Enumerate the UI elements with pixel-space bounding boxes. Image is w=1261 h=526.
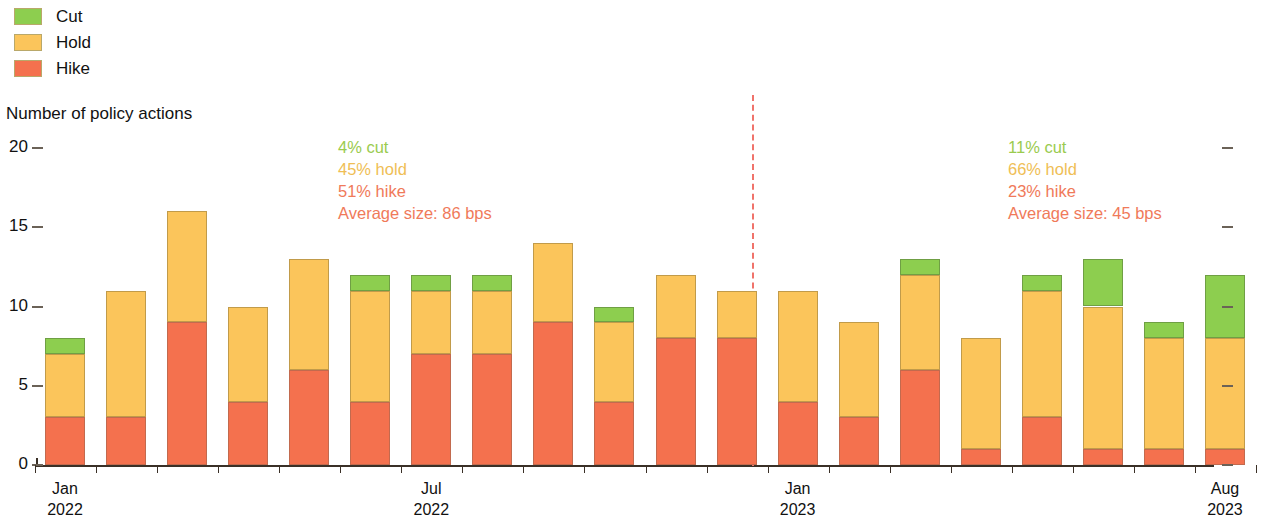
y-tick-dash-left-5 bbox=[32, 385, 43, 387]
x-axis-label-year: 2023 bbox=[1185, 499, 1261, 520]
bar-segment-cut[interactable] bbox=[411, 275, 451, 291]
x-axis-label-month: Aug bbox=[1185, 478, 1261, 499]
y-tick-dash-right-5 bbox=[1222, 385, 1233, 387]
bar-feb-2023[interactable] bbox=[839, 0, 879, 526]
bar-segment-hike[interactable] bbox=[656, 338, 696, 465]
bar-segment-cut[interactable] bbox=[1083, 259, 1123, 307]
bar-segment-hike[interactable] bbox=[45, 417, 85, 465]
bar-may-2023[interactable] bbox=[1022, 0, 1062, 526]
bar-aug-2023[interactable] bbox=[1205, 0, 1245, 526]
y-tick-label-10: 10 bbox=[2, 296, 28, 316]
bar-segment-hike[interactable] bbox=[228, 402, 268, 465]
bar-segment-hold[interactable] bbox=[1083, 307, 1123, 450]
bar-segment-hold[interactable] bbox=[533, 243, 573, 322]
bar-segment-hold[interactable] bbox=[594, 322, 634, 401]
bar-segment-hike[interactable] bbox=[1144, 449, 1184, 465]
bar-jul-2023[interactable] bbox=[1144, 0, 1184, 526]
bar-aug-2022[interactable] bbox=[472, 0, 512, 526]
x-axis-tick bbox=[523, 465, 524, 473]
bar-apr-2022[interactable] bbox=[228, 0, 268, 526]
annotation-2023: 11% cut 66% hold 23% hike Average size: … bbox=[1008, 136, 1162, 224]
x-axis-tick bbox=[96, 465, 97, 473]
bar-mar-2022[interactable] bbox=[167, 0, 207, 526]
bar-may-2022[interactable] bbox=[289, 0, 329, 526]
bar-segment-hold[interactable] bbox=[106, 291, 146, 418]
x-axis-label-aug-2023: Aug2023 bbox=[1185, 478, 1261, 520]
bar-jun-2022[interactable] bbox=[350, 0, 390, 526]
bar-segment-cut[interactable] bbox=[1022, 275, 1062, 291]
x-axis-tick bbox=[279, 465, 280, 473]
bar-segment-hold[interactable] bbox=[472, 291, 512, 354]
y-tick-label-0: 0 bbox=[2, 454, 28, 474]
bar-segment-hold[interactable] bbox=[350, 291, 390, 402]
bar-segment-hold[interactable] bbox=[1205, 338, 1245, 449]
x-axis-tick bbox=[340, 465, 341, 473]
bar-segment-cut[interactable] bbox=[1144, 322, 1184, 338]
bar-mar-2023[interactable] bbox=[900, 0, 940, 526]
y-tick-label-20: 20 bbox=[2, 137, 28, 157]
x-axis-label-jan-2023: Jan2023 bbox=[758, 478, 838, 520]
x-axis-label-year: 2022 bbox=[391, 499, 471, 520]
bar-segment-cut[interactable] bbox=[594, 307, 634, 323]
bar-jan-2022[interactable] bbox=[45, 0, 85, 526]
bar-segment-hold[interactable] bbox=[1022, 291, 1062, 418]
bar-segment-cut[interactable] bbox=[350, 275, 390, 291]
bar-segment-hike[interactable] bbox=[411, 354, 451, 465]
x-axis-label-jul-2022: Jul2022 bbox=[391, 478, 471, 520]
annotation-2022-cut: 4% cut bbox=[338, 136, 492, 158]
bar-segment-hold[interactable] bbox=[900, 275, 940, 370]
bar-segment-hike[interactable] bbox=[167, 322, 207, 465]
bar-segment-hike[interactable] bbox=[961, 449, 1001, 465]
bar-jan-2023[interactable] bbox=[778, 0, 818, 526]
bar-feb-2022[interactable] bbox=[106, 0, 146, 526]
bar-segment-hold[interactable] bbox=[839, 322, 879, 417]
bar-segment-hike[interactable] bbox=[717, 338, 757, 465]
bar-segment-hold[interactable] bbox=[961, 338, 1001, 449]
bar-dec-2022[interactable] bbox=[717, 0, 757, 526]
bar-segment-hike[interactable] bbox=[778, 402, 818, 465]
bar-segment-hike[interactable] bbox=[472, 354, 512, 465]
bar-segment-hold[interactable] bbox=[717, 291, 757, 339]
bar-segment-cut[interactable] bbox=[900, 259, 940, 275]
bar-segment-hike[interactable] bbox=[350, 402, 390, 465]
bar-segment-hike[interactable] bbox=[594, 402, 634, 465]
y-tick-dash-right-15 bbox=[1222, 226, 1233, 228]
bar-jul-2022[interactable] bbox=[411, 0, 451, 526]
x-axis-tick bbox=[1195, 465, 1196, 473]
x-axis-label-jan-2022: Jan2022 bbox=[25, 478, 105, 520]
bar-jun-2023[interactable] bbox=[1083, 0, 1123, 526]
bar-segment-hike[interactable] bbox=[900, 370, 940, 465]
x-axis-tick bbox=[157, 465, 158, 473]
bar-segment-hike[interactable] bbox=[839, 417, 879, 465]
bar-nov-2022[interactable] bbox=[656, 0, 696, 526]
x-axis-tick bbox=[462, 465, 463, 473]
bar-segment-hike[interactable] bbox=[1205, 449, 1245, 465]
bar-segment-hike[interactable] bbox=[289, 370, 329, 465]
bar-segment-cut[interactable] bbox=[45, 338, 85, 354]
x-axis-label-month: Jul bbox=[391, 478, 471, 499]
bar-segment-hike[interactable] bbox=[1022, 417, 1062, 465]
annotation-2022-hold: 45% hold bbox=[338, 158, 492, 180]
bar-segment-hold[interactable] bbox=[45, 354, 85, 417]
bar-segment-hold[interactable] bbox=[411, 291, 451, 354]
x-axis-tick bbox=[1073, 465, 1074, 473]
x-axis-tick bbox=[584, 465, 585, 473]
bar-segment-hold[interactable] bbox=[778, 291, 818, 402]
bar-sep-2022[interactable] bbox=[533, 0, 573, 526]
y-tick-dash-left-20 bbox=[32, 147, 43, 149]
bar-segment-hike[interactable] bbox=[533, 322, 573, 465]
bar-segment-hold[interactable] bbox=[228, 307, 268, 402]
bar-segment-hike[interactable] bbox=[106, 417, 146, 465]
x-axis-tick bbox=[1134, 465, 1135, 473]
bar-segment-hold[interactable] bbox=[656, 275, 696, 338]
bar-segment-hold[interactable] bbox=[289, 259, 329, 370]
y-tick-label-15: 15 bbox=[2, 216, 28, 236]
y-tick-dash-left-15 bbox=[32, 226, 43, 228]
bar-oct-2022[interactable] bbox=[594, 0, 634, 526]
x-axis-tick bbox=[646, 465, 647, 473]
bar-apr-2023[interactable] bbox=[961, 0, 1001, 526]
bar-segment-hike[interactable] bbox=[1083, 449, 1123, 465]
bar-segment-hold[interactable] bbox=[167, 211, 207, 322]
bar-segment-cut[interactable] bbox=[472, 275, 512, 291]
bar-segment-hold[interactable] bbox=[1144, 338, 1184, 449]
